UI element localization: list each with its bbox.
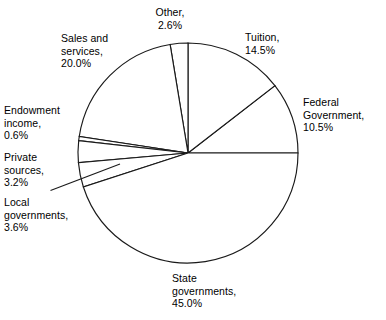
slice-label-tuition: Tuition, 14.5% (245, 31, 335, 56)
slice-label-other: Other, 2.6% (133, 6, 207, 31)
slice-label-state-governments: State governments, 45.0% (172, 272, 268, 310)
slice-label-endowment-income: Endowment income, 0.6% (4, 104, 90, 142)
slice-label-federal-government: Federal Government, 10.5% (303, 96, 386, 134)
slice-label-private-sources: Private sources, 3.2% (4, 151, 76, 189)
pie-chart-figure: Other, 2.6% Tuition, 14.5% Federal Gover… (0, 0, 386, 320)
slice-label-local-governments: Local governments, 3.6% (4, 196, 90, 234)
pie-slices-group (78, 43, 298, 263)
slice-label-sales-and-services: Sales and services, 20.0% (61, 32, 143, 70)
